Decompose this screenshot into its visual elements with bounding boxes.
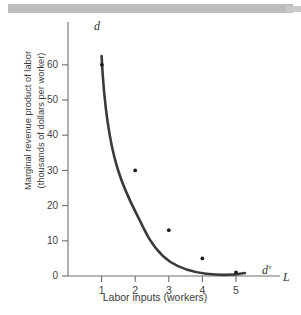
- data-point-1: [100, 63, 104, 67]
- y-axis-title: Marginal revenue product of labor (thous…: [22, 23, 47, 219]
- figure-container: 0 10 20 30 40 50 60 1 2 3 4 5 Marginal r…: [0, 0, 301, 315]
- y-tick-label-0: 0: [36, 271, 58, 281]
- x-axis-ticks: [102, 276, 236, 282]
- data-point-3: [167, 228, 171, 232]
- data-point-4: [201, 257, 205, 261]
- curve-end-label: d′: [262, 263, 271, 278]
- y-axis-ticks: [62, 65, 68, 276]
- data-point-2: [133, 169, 137, 173]
- data-point-5: [234, 271, 238, 275]
- x-axis-variable-label: L: [283, 270, 290, 285]
- x-axis-title: Labor inputs (workers): [55, 291, 255, 303]
- data-point-markers: [100, 63, 238, 275]
- y-tick-label-10: 10: [36, 236, 58, 246]
- demand-curve: [102, 56, 245, 275]
- curve-start-label: d: [94, 19, 100, 34]
